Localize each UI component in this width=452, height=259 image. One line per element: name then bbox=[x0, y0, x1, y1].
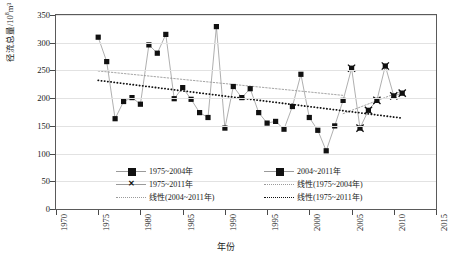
legend-item[interactable]: 2004~2011年 bbox=[264, 167, 416, 176]
y-axis-title: 径流总量/108m³ bbox=[2, 50, 15, 62]
data-point bbox=[382, 62, 389, 69]
legend-key-icon bbox=[264, 193, 294, 202]
data-point bbox=[307, 115, 312, 120]
y-axis-tick-label: 50 bbox=[10, 177, 50, 186]
marker-square bbox=[231, 84, 236, 89]
marker-square bbox=[96, 35, 101, 40]
legend-line-sample bbox=[116, 197, 146, 198]
legend-item-label: 2004~2011年 bbox=[297, 167, 341, 176]
legend-item-label: 线性(1975~2011年) bbox=[297, 193, 362, 202]
legend-line-sample bbox=[264, 197, 294, 198]
x-axis-tick-label: 1970 bbox=[60, 214, 69, 231]
data-point bbox=[273, 119, 278, 124]
marker-square bbox=[214, 24, 219, 29]
data-point bbox=[104, 59, 109, 64]
marker-square bbox=[138, 102, 143, 107]
data-point bbox=[214, 24, 219, 29]
data-point bbox=[180, 85, 185, 90]
x-axis-tick-label: 1995 bbox=[271, 214, 280, 231]
marker-square bbox=[315, 128, 320, 133]
x-axis-tick bbox=[56, 210, 57, 215]
data-point bbox=[290, 104, 295, 109]
x-axis-tick-label: 2015 bbox=[440, 214, 449, 231]
legend-item[interactable]: ✕1975~2011年 bbox=[116, 180, 264, 189]
data-point bbox=[197, 110, 202, 115]
legend-item[interactable]: 线性(1975~2011年) bbox=[264, 193, 416, 202]
marker-square bbox=[205, 115, 210, 120]
legend-key-icon bbox=[116, 167, 146, 176]
data-point bbox=[96, 35, 101, 40]
data-point bbox=[298, 72, 303, 77]
data-point bbox=[315, 128, 320, 133]
legend-key-icon: ✕ bbox=[116, 180, 146, 189]
x-axis-tick bbox=[352, 210, 353, 215]
x-axis-tick bbox=[98, 210, 99, 215]
data-point bbox=[155, 51, 160, 56]
marker-square bbox=[121, 99, 126, 104]
y-axis-tick-label: 100 bbox=[10, 150, 50, 159]
y-axis-tick-label: 300 bbox=[10, 39, 50, 48]
data-point bbox=[248, 86, 253, 91]
data-point bbox=[256, 110, 261, 115]
marker-square bbox=[180, 85, 185, 90]
x-axis-tick-label: 2000 bbox=[313, 214, 322, 231]
marker-square bbox=[256, 110, 261, 115]
legend-item-label: 1975~2011年 bbox=[149, 180, 193, 189]
data-point bbox=[121, 99, 126, 104]
data-point bbox=[163, 32, 168, 37]
gridline bbox=[56, 98, 436, 99]
y-axis-tick-label: 0 bbox=[10, 205, 50, 214]
x-axis-tick-label: 1980 bbox=[144, 214, 153, 231]
marker-square bbox=[248, 86, 253, 91]
marker-square bbox=[281, 127, 286, 132]
gridline bbox=[56, 154, 436, 155]
legend-item-label: 1975~2004年 bbox=[149, 167, 193, 176]
data-point bbox=[138, 102, 143, 107]
marker-square bbox=[197, 110, 202, 115]
marker-square bbox=[163, 32, 168, 37]
x-axis-title: 年份 bbox=[0, 240, 452, 253]
legend-item-label: 线性(2004~2011年) bbox=[149, 193, 214, 202]
marker-square bbox=[298, 72, 303, 77]
x-axis-tick-label: 2010 bbox=[398, 214, 407, 231]
legend-key-icon bbox=[116, 193, 146, 202]
legend-marker-x: ✕ bbox=[128, 181, 134, 187]
marker-square bbox=[290, 104, 295, 109]
legend-marker-square bbox=[128, 168, 136, 176]
legend: 1975~2004年2004~2011年✕1975~2011年线性(1975~2… bbox=[116, 165, 416, 204]
x-axis-tick-label: 2005 bbox=[356, 214, 365, 231]
x-axis-tick-label: 1975 bbox=[102, 214, 111, 231]
y-axis-tick-label: 350 bbox=[10, 11, 50, 20]
data-point bbox=[399, 90, 406, 97]
legend-key-icon bbox=[264, 180, 294, 189]
x-axis-tick bbox=[225, 210, 226, 215]
x-axis-tick bbox=[183, 210, 184, 215]
legend-item[interactable]: 1975~2004年 bbox=[116, 167, 264, 176]
x-axis-tick-label: 1990 bbox=[229, 214, 238, 231]
marker-square bbox=[307, 115, 312, 120]
chart-figure: 径流总量/108m³ 050100150200250300350 1970197… bbox=[0, 0, 452, 259]
legend-item[interactable]: 线性(1975~2004年) bbox=[264, 180, 416, 189]
data-point bbox=[113, 116, 118, 121]
x-axis-tick bbox=[140, 210, 141, 215]
plot-area: 1975~2004年2004~2011年✕1975~2011年线性(1975~2… bbox=[55, 14, 437, 210]
gridline bbox=[56, 70, 436, 71]
y-axis-tick-label: 200 bbox=[10, 94, 50, 103]
x-axis-tick bbox=[394, 210, 395, 215]
legend-marker-square bbox=[276, 168, 284, 176]
legend-item[interactable]: 线性(2004~2011年) bbox=[116, 193, 264, 202]
legend-line-sample bbox=[264, 184, 294, 185]
data-point bbox=[231, 84, 236, 89]
marker-square bbox=[155, 51, 160, 56]
gridline bbox=[56, 15, 436, 16]
gridline bbox=[56, 43, 436, 44]
x-axis-tick-label: 1985 bbox=[187, 214, 196, 231]
x-axis-tick bbox=[267, 210, 268, 215]
data-point bbox=[205, 115, 210, 120]
x-axis-tick bbox=[309, 210, 310, 215]
x-axis-tick bbox=[436, 210, 437, 215]
marker-square bbox=[273, 119, 278, 124]
data-point bbox=[365, 107, 372, 114]
gridline bbox=[56, 126, 436, 127]
data-point bbox=[281, 127, 286, 132]
